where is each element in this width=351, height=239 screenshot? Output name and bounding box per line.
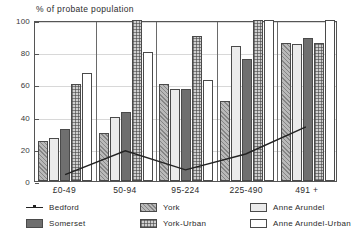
ytick-label-100: 100	[8, 17, 30, 26]
legend-swatch-icon	[140, 219, 157, 228]
ytick-label-60: 60	[8, 81, 30, 90]
legend-label: Somerset	[49, 219, 86, 228]
legend-swatch-icon	[250, 203, 267, 212]
legend-swatch-icon	[26, 219, 43, 228]
xtick-label: 50-94	[113, 185, 136, 195]
ytick-label-20: 20	[8, 145, 30, 154]
legend-item-somerset[interactable]: Somerset	[26, 219, 86, 228]
ytick-label-0: 0	[8, 178, 30, 187]
ytick-label-80: 80	[8, 49, 30, 58]
legend-label: York-Urban	[163, 219, 206, 228]
legend-line-marker-icon	[26, 203, 43, 212]
x-axis-labels: £0-4950-9495-224225-490491 +	[34, 185, 337, 199]
xtick-label: 95-224	[171, 185, 199, 195]
legend-label: York	[163, 203, 180, 212]
bedford-line-series	[35, 22, 336, 181]
xtick-label: £0-49	[53, 185, 76, 195]
xtick-label: 491 +	[295, 185, 318, 195]
legend-label: Anne Arundel	[273, 203, 325, 212]
legend-item-york[interactable]: York	[140, 203, 180, 212]
legend-item-annearundelurban[interactable]: Anne Arundel-Urban	[250, 219, 351, 228]
y-axis-title: % of probate population	[36, 4, 134, 14]
line-path-bedford	[65, 127, 306, 175]
ytick-mark-0	[35, 183, 39, 184]
legend-label: Bedford	[49, 203, 79, 212]
legend-item-bedford[interactable]: Bedford	[26, 203, 79, 212]
xtick-label: 225-490	[229, 185, 262, 195]
plot-area	[34, 21, 337, 182]
legend-item-yorkurban[interactable]: York-Urban	[140, 219, 206, 228]
ytick-label-40: 40	[8, 113, 30, 122]
chart-legend: BedfordSomersetYorkYork-UrbanAnne Arunde…	[0, 203, 345, 239]
legend-swatch-icon	[250, 219, 267, 228]
legend-label: Anne Arundel-Urban	[273, 219, 351, 228]
legend-item-annearundel[interactable]: Anne Arundel	[250, 203, 325, 212]
legend-swatch-icon	[140, 203, 157, 212]
